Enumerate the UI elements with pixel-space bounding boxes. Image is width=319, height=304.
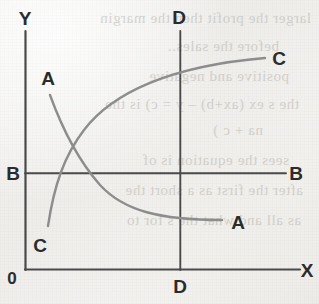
y-axis-label: Y	[19, 9, 32, 28]
curve-a-start-label: A	[41, 69, 55, 88]
figure-canvas: larger the profit then the marginbefore …	[0, 0, 319, 304]
x-axis-label: X	[301, 261, 314, 280]
d-label-bottom: D	[173, 277, 187, 296]
b-label-left: B	[6, 164, 20, 183]
d-label-top: D	[172, 8, 186, 27]
b-label-right: B	[289, 164, 303, 183]
curve-a-path	[50, 95, 222, 220]
graph-drawing	[0, 0, 319, 304]
curve-c-start-label: C	[33, 236, 47, 255]
origin-label: 0	[7, 270, 16, 287]
curve-a-end-label: A	[231, 213, 245, 232]
curve-c-path	[48, 58, 265, 226]
curve-c-end-label: C	[272, 49, 286, 68]
